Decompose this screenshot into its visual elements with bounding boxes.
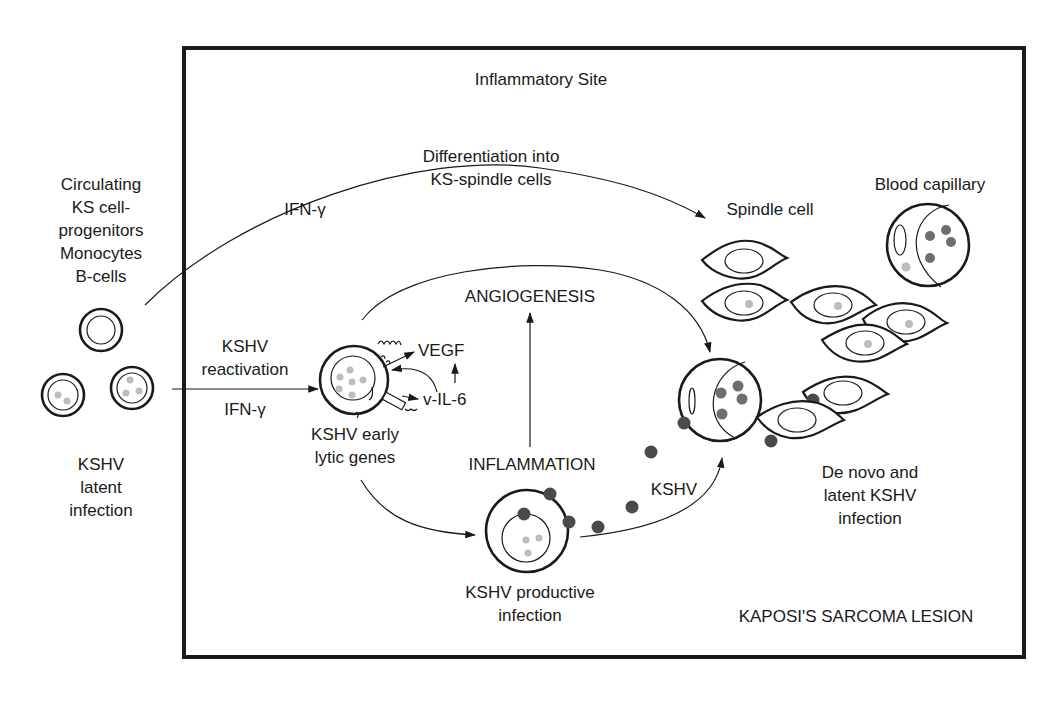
vil6-secretion-arrow — [402, 396, 418, 399]
spindle-cell-2 — [702, 284, 787, 321]
vegf-secretion-arrow — [383, 352, 414, 367]
de-novo-latent-infection-label: De novo and latent KSHV infection — [822, 463, 918, 528]
differentiation-arrow — [145, 165, 705, 305]
svg-text:KSHV early: KSHV early — [311, 425, 399, 444]
productive-infection-cell — [486, 488, 576, 573]
uninfected-circulating-cell — [80, 309, 122, 351]
vil6-autocrine-arrow — [392, 369, 437, 392]
latently-infected-cell-right — [111, 367, 153, 409]
svg-text:Monocytes: Monocytes — [60, 244, 142, 263]
spindle-cell-7 — [757, 401, 844, 447]
kshv-latent-infection-label: KSHV latent infection — [69, 455, 132, 520]
angiogenesis-label: ANGIOGENESIS — [465, 287, 595, 306]
blood-capillary — [887, 204, 969, 287]
inflammatory-site-title: Inflammatory Site — [475, 70, 607, 89]
svg-text:progenitors: progenitors — [58, 221, 143, 240]
kshv-productive-infection-label: KSHV productive infection — [465, 583, 594, 625]
inflammation-label: INFLAMMATION — [468, 455, 595, 474]
kaposi-sarcoma-lesion-label: KAPOSI'S SARCOMA LESION — [739, 607, 974, 626]
lytic-reactivation-cell — [320, 341, 417, 418]
latently-infected-cell-left — [42, 374, 84, 416]
circulating-cells-label: Circulating KS cell- progenitors Monocyt… — [58, 175, 143, 286]
svg-text:KS cell-: KS cell- — [72, 198, 131, 217]
lytic-to-productive-arrow — [361, 480, 475, 535]
vil6-label: v-IL-6 — [423, 390, 466, 409]
svg-text:latent: latent — [80, 478, 122, 497]
svg-text:infection: infection — [69, 501, 132, 520]
spindle-cell-label: Spindle cell — [727, 200, 814, 219]
angiogenesis-arc-arrow — [362, 266, 710, 352]
kshv-virion-label: KSHV — [651, 480, 698, 499]
svg-text:KS-spindle cells: KS-spindle cells — [431, 170, 552, 189]
svg-text:KSHV productive: KSHV productive — [465, 583, 594, 602]
svg-text:Differentiation into: Differentiation into — [423, 147, 560, 166]
vegf-label: VEGF — [418, 341, 464, 360]
spindle-cell-1 — [702, 241, 787, 279]
svg-text:KSHV: KSHV — [222, 337, 269, 356]
infected-lesion-cell — [678, 359, 762, 441]
svg-text:B-cells: B-cells — [75, 267, 126, 286]
kshv-reactivation-label: KSHV reactivation — [202, 337, 289, 379]
svg-text:infection: infection — [838, 509, 901, 528]
kshv-early-lytic-genes-label: KSHV early lytic genes — [311, 425, 399, 467]
ifn-gamma-top-label: IFN-γ — [284, 200, 326, 219]
svg-text:latent KSHV: latent KSHV — [824, 486, 917, 505]
svg-text:Circulating: Circulating — [61, 175, 141, 194]
svg-text:lytic genes: lytic genes — [315, 448, 395, 467]
svg-text:KSHV: KSHV — [78, 455, 125, 474]
kshv-virions — [592, 446, 658, 534]
ifn-gamma-bottom-label: IFN-γ — [224, 400, 266, 419]
svg-text:infection: infection — [498, 606, 561, 625]
svg-text:reactivation: reactivation — [202, 360, 289, 379]
svg-text:De novo and: De novo and — [822, 463, 918, 482]
blood-capillary-label: Blood capillary — [875, 175, 986, 194]
inflammatory-site-frame — [184, 48, 1024, 657]
kshv-pathogenesis-diagram: Inflammatory Site Circulating KS cell- p… — [0, 0, 1058, 707]
